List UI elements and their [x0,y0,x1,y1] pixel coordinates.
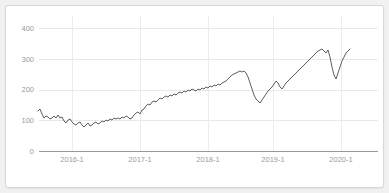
x-axis-tick-labels: 2016-12017-12018-12019-12020-1 [60,155,352,164]
chart-card: 0100200300400 2016-12017-12018-12019-120… [5,5,384,188]
x-tick-label-2020-1: 2020-1 [329,155,352,164]
y-tick-label-300: 300 [21,55,34,64]
y-tick-label-400: 400 [21,24,34,33]
vertical-gridlines [73,16,342,151]
y-tick-label-200: 200 [21,85,34,94]
y-axis-tick-labels: 0100200300400 [21,24,34,156]
x-tick-label-2017-1: 2017-1 [128,155,151,164]
y-tick-label-100: 100 [21,116,34,125]
line-chart[interactable]: 0100200300400 2016-12017-12018-12019-120… [6,6,383,187]
series-line-price [38,49,350,127]
chart-screenshot-root: 0100200300400 2016-12017-12018-12019-120… [0,0,389,193]
chart-container[interactable]: 0100200300400 2016-12017-12018-12019-120… [6,6,383,187]
x-tick-label-2016-1: 2016-1 [60,155,83,164]
x-tick-label-2018-1: 2018-1 [196,155,219,164]
y-tick-label-0: 0 [30,147,34,156]
x-tick-label-2019-1: 2019-1 [261,155,284,164]
